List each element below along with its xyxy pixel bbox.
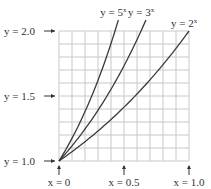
arrowhead-icon xyxy=(51,159,55,163)
arrowhead-icon xyxy=(57,165,61,169)
y-tick-label: y = 2.0 xyxy=(4,25,35,37)
x-tick-label: x = 0.5 xyxy=(109,176,140,188)
y-tick-label: y = 1.5 xyxy=(4,90,35,102)
arrowhead-icon xyxy=(122,165,126,169)
exponential-chart: y = 1.0y = 1.5y = 2.0 x = 0x = 0.5x = 1.… xyxy=(0,0,211,189)
x-axis-labels: x = 0x = 0.5x = 1.0 xyxy=(48,165,205,188)
series-labels: y = 5xy = 3xy = 2x xyxy=(100,6,197,29)
x-tick-label: x = 1.0 xyxy=(174,176,205,188)
series-label: y = 2x xyxy=(171,17,198,29)
y-tick-label: y = 1.0 xyxy=(4,155,35,167)
x-tick-label: x = 0 xyxy=(48,176,71,188)
arrowhead-icon xyxy=(51,29,55,33)
curve-5-pow-x xyxy=(59,20,118,161)
series-label: y = 3x xyxy=(128,6,155,18)
series-label: y = 5x xyxy=(100,6,127,18)
arrowhead-icon xyxy=(187,165,191,169)
grid xyxy=(59,31,189,161)
y-axis-labels: y = 1.0y = 1.5y = 2.0 xyxy=(4,25,55,167)
arrowhead-icon xyxy=(51,94,55,98)
